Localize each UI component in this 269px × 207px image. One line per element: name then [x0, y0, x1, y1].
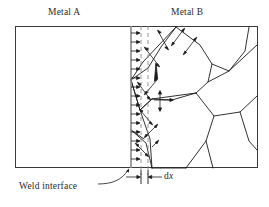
dx-label-var: x: [169, 171, 173, 181]
weld-interface-label: Weld interface: [19, 181, 77, 191]
metal-b-label: Metal B: [171, 7, 203, 17]
interface-arrow-group: [131, 32, 140, 161]
weld-interface-leader: [98, 170, 128, 184]
dx-left-arrowhead: [137, 175, 141, 178]
metal-a-label: Metal A: [48, 7, 80, 17]
dx-label: dx: [164, 171, 173, 181]
weld-solidification-diagram: [0, 0, 269, 207]
dx-dimension: [126, 170, 162, 184]
dx-right-arrowhead: [148, 175, 152, 178]
